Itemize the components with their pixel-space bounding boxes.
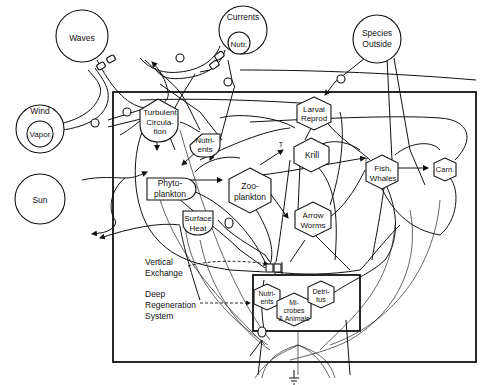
svg-text:Turbulent: Turbulent — [143, 108, 177, 117]
source-waves: Waves — [56, 10, 108, 62]
ecosystem-flow-diagram: T T Waves Currents Nutr. Species Outside… — [0, 0, 488, 385]
node-surface-heat: Surface Heat — [183, 211, 213, 235]
node-turbulent-circulation: Turbulent Circula- tion — [140, 99, 178, 142]
svg-text:Whales: Whales — [370, 174, 397, 183]
svg-text:Zoo-: Zoo- — [241, 181, 259, 191]
switch-t-krill: T — [279, 141, 284, 148]
source-wind: Wind Vapor — [16, 105, 64, 153]
svg-text:Carn.: Carn. — [436, 165, 454, 174]
svg-text:Regeneration: Regeneration — [145, 300, 196, 310]
svg-text:System: System — [145, 311, 173, 321]
node-larval-reproduction: Larval Reprod — [297, 97, 331, 130]
label-vertical-exchange: Vertical Exchange — [145, 257, 183, 278]
interaction-valves — [91, 51, 345, 337]
svg-text:Deep: Deep — [145, 289, 166, 299]
svg-text:Larval: Larval — [303, 105, 325, 114]
svg-text:Surface: Surface — [184, 214, 212, 223]
svg-text:Waves: Waves — [69, 33, 95, 43]
svg-text:ents: ents — [197, 145, 212, 154]
svg-text:Phyto-: Phyto- — [158, 178, 183, 188]
svg-text:Mi-: Mi- — [289, 299, 299, 306]
node-deep-nutrients: Nutri- ents — [254, 284, 280, 310]
svg-text:Worms: Worms — [300, 221, 325, 230]
node-arrow-worms: Arrow Worms — [295, 202, 331, 237]
svg-text:crobes: crobes — [283, 307, 305, 314]
source-currents: Currents Nutr. — [219, 6, 267, 54]
svg-text:Outside: Outside — [362, 39, 392, 49]
svg-text:Sun: Sun — [32, 195, 47, 205]
svg-text:Species: Species — [362, 28, 392, 38]
svg-text:Nutr.: Nutr. — [231, 40, 248, 49]
svg-text:Nutri-: Nutri- — [258, 290, 276, 297]
svg-text:tus: tus — [316, 296, 326, 303]
svg-text:Circula-: Circula- — [146, 118, 174, 127]
heat-sink-icon — [289, 370, 299, 384]
svg-text:plankton: plankton — [234, 192, 266, 202]
source-sun: Sun — [15, 174, 65, 224]
svg-text:Krill: Krill — [305, 150, 319, 160]
source-species-outside: Species Outside — [353, 15, 401, 63]
svg-text:& Animals: & Animals — [278, 315, 310, 322]
svg-text:Reprod: Reprod — [301, 114, 327, 123]
node-phytoplankton: Phyto- plankton — [147, 178, 196, 200]
svg-text:Fish,: Fish, — [374, 164, 391, 173]
svg-text:tion: tion — [154, 127, 167, 136]
node-detritus: Detri- tus — [308, 281, 334, 308]
label-deep-regeneration-system: Deep Regeneration System — [145, 289, 196, 321]
svg-text:Detri-: Detri- — [312, 288, 330, 295]
svg-text:Vapor: Vapor — [30, 130, 51, 139]
svg-text:ents: ents — [260, 298, 274, 305]
svg-text:Heat: Heat — [190, 224, 208, 233]
svg-text:plankton: plankton — [154, 189, 186, 199]
svg-text:Exchange: Exchange — [145, 268, 183, 278]
node-microbes-animals: Mi- crobes & Animals — [277, 293, 311, 326]
svg-text:Wind: Wind — [30, 106, 50, 116]
svg-text:Nutri-: Nutri- — [195, 136, 215, 145]
svg-text:Arrow: Arrow — [303, 211, 324, 220]
svg-text:Currents: Currents — [227, 12, 260, 22]
node-fish-whales: Fish, Whales — [366, 155, 398, 189]
flow-lines — [55, 46, 476, 378]
svg-text:Vertical: Vertical — [145, 257, 173, 267]
node-carnivores: Carn. — [434, 158, 456, 181]
node-nutrients: Nutri- ents — [190, 134, 220, 157]
